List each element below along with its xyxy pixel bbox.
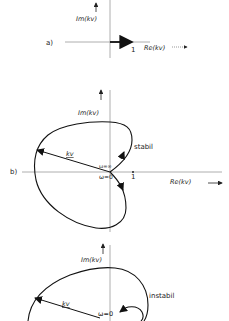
omega-zero-label: ω=0 (99, 173, 113, 180)
nyquist-curve (35, 122, 133, 229)
curve-direction-arrow-icon (120, 183, 123, 190)
im-axis-label: Im(kv) (76, 15, 97, 23)
nyquist-curve (28, 268, 148, 321)
re-axis-label: Re(kv) (170, 178, 191, 186)
stability-label: stabil (134, 143, 153, 151)
unit-point-label: 1 (131, 173, 135, 181)
panel-label: a) (46, 39, 53, 47)
panel-a: a) Im(kv) 1 Re(kv) (46, 0, 187, 58)
panel-c: Im(kv) kv ω=0 instabil (28, 244, 174, 321)
panel-label: b) (10, 168, 17, 176)
curve-direction-arrow-icon (121, 152, 124, 159)
stability-label: instabil (149, 292, 174, 300)
re-axis-label: Re(kv) (144, 44, 165, 52)
panel-b: b) Im(kv) kv ω=∞ ω=0 1 stabil Re(kv) (10, 90, 222, 232)
vector-label: kv (66, 150, 74, 158)
im-axis-label: Im(kv) (81, 256, 102, 264)
unit-point-label: 1 (131, 46, 135, 54)
im-axis-label: Im(kv) (78, 109, 99, 117)
vector-label: kv (62, 300, 70, 308)
omega-inf-label: ω=∞ (99, 163, 112, 169)
omega-zero-label: ω=0 (98, 310, 113, 318)
nyquist-diagram: a) Im(kv) 1 Re(kv) b) Im(kv) kv ω=∞ ω=0 … (0, 0, 229, 321)
